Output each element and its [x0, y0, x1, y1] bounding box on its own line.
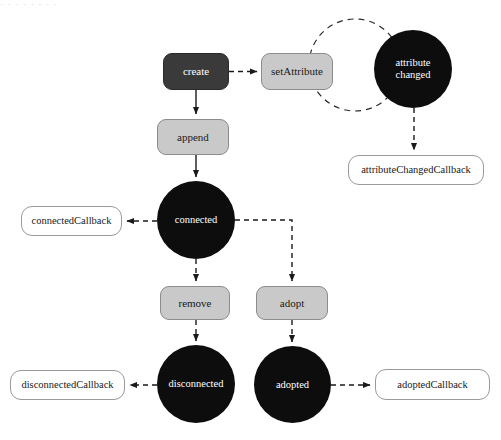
node-disconnected[interactable]: disconnected — [157, 345, 235, 423]
diagram-canvas: · · · · · · · · — [0, 0, 501, 440]
node-disconnected-label: disconnected — [169, 378, 224, 390]
node-append[interactable]: append — [157, 119, 229, 155]
page-top-text-fragment: · · · · · · · · — [0, 0, 160, 11]
node-attribute-changed[interactable]: attributechanged — [374, 30, 452, 108]
node-connectedcallback-label: connectedCallback — [32, 215, 112, 227]
node-append-label: append — [177, 131, 209, 143]
node-adoptedcallback[interactable]: adoptedCallback — [375, 369, 490, 400]
node-setattribute-label: setAttribute — [271, 65, 323, 77]
node-connectedcallback[interactable]: connectedCallback — [21, 206, 122, 236]
node-setattribute[interactable]: setAttribute — [261, 53, 333, 90]
node-create[interactable]: create — [163, 53, 229, 90]
node-adopted[interactable]: adopted — [254, 346, 331, 423]
node-remove-label: remove — [179, 297, 212, 309]
node-create-label: create — [183, 65, 209, 77]
node-attributechangedcallback[interactable]: attributeChangedCallback — [348, 155, 484, 185]
node-attribute-changed-label: attributechanged — [396, 57, 431, 81]
edge-connected-to-adopt — [235, 220, 292, 281]
node-disconnectedcallback[interactable]: disconnectedCallback — [10, 370, 125, 400]
node-connected[interactable]: connected — [157, 181, 235, 259]
node-adoptedcallback-label: adoptedCallback — [397, 379, 468, 391]
node-connected-label: connected — [175, 214, 218, 226]
node-adopt-label: adopt — [280, 297, 304, 309]
node-adopted-label: adopted — [276, 379, 309, 391]
node-attributechangedcallback-label: attributeChangedCallback — [361, 164, 471, 176]
node-disconnectedcallback-label: disconnectedCallback — [21, 379, 113, 391]
node-remove[interactable]: remove — [160, 286, 230, 320]
node-adopt[interactable]: adopt — [256, 286, 328, 320]
